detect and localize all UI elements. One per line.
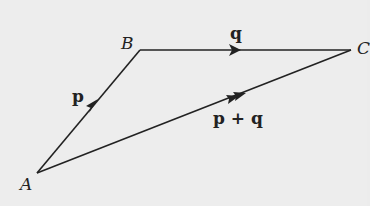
vector-p-plus-q-line	[37, 50, 351, 173]
vector-p-line	[37, 50, 140, 173]
vector-label-q: q	[230, 23, 242, 43]
point-label-c: C	[357, 38, 370, 58]
point-label-a: A	[20, 174, 32, 194]
vector-label-p: p	[72, 86, 84, 106]
point-label-b: B	[121, 33, 134, 53]
arrowhead-p-icon	[86, 99, 98, 113]
vector-label-p-plus-q: p + q	[213, 108, 263, 128]
